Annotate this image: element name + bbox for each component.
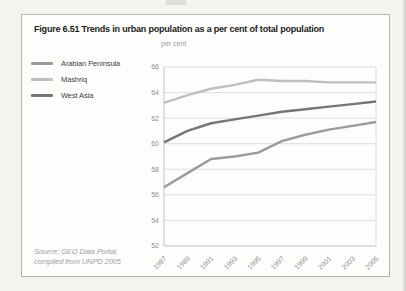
svg-text:1997: 1997 bbox=[270, 255, 286, 271]
figure-title: Figure 6.51 Trends in urban population a… bbox=[34, 24, 379, 34]
legend-label: Arabian Peninsula bbox=[61, 59, 120, 68]
svg-text:62: 62 bbox=[151, 115, 159, 122]
source-note: Source: GEO Data Portal, compiled from U… bbox=[34, 247, 121, 267]
scan-artifact bbox=[165, 0, 187, 5]
figure-panel: Figure 6.51 Trends in urban population a… bbox=[21, 14, 390, 277]
svg-text:1999: 1999 bbox=[293, 255, 309, 271]
legend-swatch-mashriq bbox=[31, 78, 53, 81]
svg-text:1995: 1995 bbox=[246, 255, 262, 271]
source-line-2: compiled from UNPD 2005 bbox=[34, 257, 121, 267]
scan-page-edge bbox=[402, 0, 406, 291]
legend-item-arabian-peninsula: Arabian Peninsula bbox=[31, 55, 120, 71]
svg-text:1991: 1991 bbox=[199, 255, 215, 271]
y-axis-unit-label: per cent bbox=[161, 40, 186, 47]
svg-text:64: 64 bbox=[151, 89, 159, 96]
svg-text:60: 60 bbox=[151, 140, 159, 147]
legend-label: Mashriq bbox=[61, 75, 87, 84]
legend-item-mashriq: Mashriq bbox=[31, 71, 120, 87]
svg-text:56: 56 bbox=[151, 191, 159, 198]
legend-item-west-asia: West Asia bbox=[31, 87, 120, 103]
svg-text:66: 66 bbox=[151, 63, 159, 70]
svg-text:2005: 2005 bbox=[364, 255, 380, 271]
svg-text:2003: 2003 bbox=[340, 255, 356, 271]
legend-swatch-west-asia bbox=[31, 94, 53, 97]
legend-label: West Asia bbox=[61, 91, 93, 100]
source-line-1: Source: GEO Data Portal, bbox=[34, 247, 121, 257]
legend-swatch-arabian-peninsula bbox=[31, 62, 53, 65]
svg-text:54: 54 bbox=[151, 217, 159, 224]
svg-text:1987: 1987 bbox=[152, 255, 168, 271]
svg-text:2001: 2001 bbox=[317, 255, 333, 271]
svg-text:1993: 1993 bbox=[222, 255, 238, 271]
svg-text:52: 52 bbox=[151, 242, 159, 249]
line-chart: 5254565860626466198719891991199319951997… bbox=[142, 55, 390, 276]
chart-legend: Arabian Peninsula Mashriq West Asia bbox=[31, 55, 120, 103]
svg-text:1989: 1989 bbox=[175, 255, 191, 271]
svg-text:58: 58 bbox=[151, 166, 159, 173]
